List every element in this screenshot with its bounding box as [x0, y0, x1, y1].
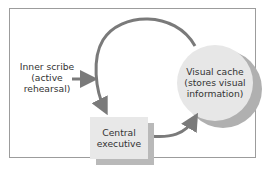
- visual-cache-label: Visual cache (stores visual information): [177, 66, 253, 99]
- inner-scribe-label: Inner scribe (active rehearsal): [12, 61, 82, 94]
- loop-arc-bottom: [150, 118, 195, 137]
- central-executive-label: Central executive: [90, 127, 148, 149]
